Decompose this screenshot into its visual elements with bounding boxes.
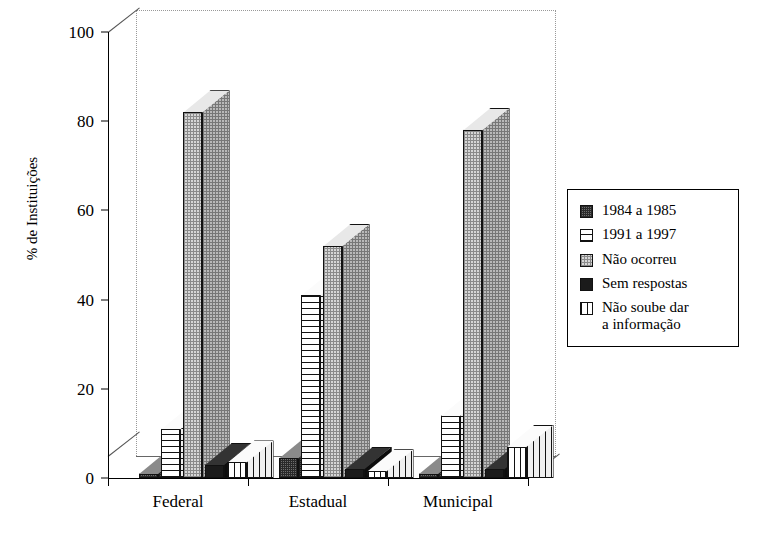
legend-item-label: 1991 a 1997 [602, 226, 676, 243]
bar-estadual-1 [301, 295, 320, 478]
x-axis-category-label: Estadual [289, 492, 348, 512]
bar-side-face [482, 108, 510, 478]
chart-figure: 020406080100 % de Instituições FederalEs… [0, 0, 764, 534]
bar-estadual-3 [345, 469, 364, 478]
legend-item-label: Não soube dar a informação [602, 299, 689, 334]
x-axis-tick-mark [248, 478, 249, 486]
bar-municipal-4 [507, 447, 526, 478]
bar-federal-2 [183, 112, 202, 478]
x-axis-tick-mark [388, 478, 389, 486]
legend-item: 1991 a 1997 [580, 226, 728, 243]
legend-item-label: 1984 a 1985 [602, 202, 676, 219]
legend-item: Não ocorreu [580, 251, 728, 268]
bar-estadual-4 [367, 471, 386, 478]
x-axis-tick-mark [528, 478, 529, 486]
chart-legend: 1984 a 19851991 a 1997Não ocorreuSem res… [567, 189, 739, 347]
bar-federal-4 [227, 462, 246, 478]
legend-item: 1984 a 1985 [580, 202, 728, 219]
bar-municipal-1 [441, 416, 460, 478]
bar-side-face [202, 90, 230, 478]
legend-item-label: Sem respostas [602, 275, 687, 292]
bar-estadual-0 [279, 458, 298, 478]
legend-swatch-icon [580, 254, 593, 267]
x-axis-category-label: Federal [153, 492, 204, 512]
legend-item: Não soube dar a informação [580, 299, 728, 334]
bar-federal-1 [161, 429, 180, 478]
legend-item: Sem respostas [580, 275, 728, 292]
bar-estadual-2 [323, 246, 342, 478]
legend-swatch-icon [580, 205, 593, 218]
bar-municipal-0 [419, 474, 438, 478]
legend-swatch-icon [580, 302, 593, 315]
legend-swatch-icon [580, 278, 593, 291]
legend-item-label: Não ocorreu [602, 251, 677, 268]
bar-municipal-3 [485, 469, 504, 478]
x-axis-tick-mark [108, 478, 109, 486]
x-axis-category-label: Municipal [423, 492, 493, 512]
bar-federal-0 [139, 474, 158, 478]
bar-municipal-2 [463, 130, 482, 478]
bar-federal-3 [205, 465, 224, 478]
legend-swatch-icon [580, 229, 593, 242]
bar-side-face [342, 224, 370, 478]
